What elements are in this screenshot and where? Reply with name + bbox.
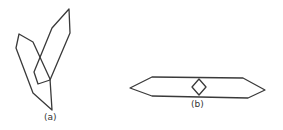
panel-a-shapes — [16, 9, 70, 110]
center-diamond — [192, 79, 206, 95]
panel-a-label: (a) — [44, 112, 57, 122]
crystal-right — [34, 9, 70, 84]
panel-b-label: (b) — [191, 99, 204, 109]
panel-b-shapes — [130, 77, 265, 98]
figure-canvas — [0, 0, 283, 130]
